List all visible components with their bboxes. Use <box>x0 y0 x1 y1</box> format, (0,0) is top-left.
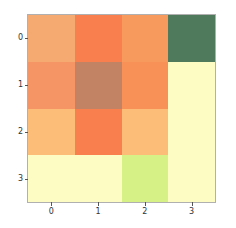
heatmap-cell <box>75 15 122 62</box>
y-tick-mark <box>25 132 29 133</box>
x-tick-label: 3 <box>189 208 194 216</box>
figure-canvas: 0123 0123 <box>0 0 236 228</box>
heatmap-cell <box>168 109 215 156</box>
y-tick-label: 1 <box>18 81 23 89</box>
x-tick-label: 1 <box>96 208 101 216</box>
heatmap-cell <box>122 109 169 156</box>
x-tick-label: 0 <box>49 208 54 216</box>
x-tick-mark <box>98 202 99 206</box>
heatmap-cell <box>75 109 122 156</box>
heatmap-cell <box>28 15 75 62</box>
x-tick-mark <box>192 202 193 206</box>
heatmap-cell <box>168 15 215 62</box>
heatmap-cell <box>168 155 215 202</box>
x-tick-label: 2 <box>142 208 147 216</box>
x-tick-mark <box>51 202 52 206</box>
x-tick-mark <box>145 202 146 206</box>
y-tick-mark <box>25 38 29 39</box>
y-tick-label: 0 <box>18 34 23 42</box>
heatmap-grid <box>28 15 215 202</box>
y-tick-label: 3 <box>18 175 23 183</box>
y-tick-label: 2 <box>18 128 23 136</box>
y-tick-mark <box>25 85 29 86</box>
heatmap-cell <box>28 155 75 202</box>
heatmap-cell <box>168 62 215 109</box>
heatmap-cell <box>75 155 122 202</box>
heatmap-cell <box>122 62 169 109</box>
heatmap-axes: 0123 0123 <box>27 14 216 203</box>
heatmap-cell <box>122 15 169 62</box>
heatmap-cell <box>28 62 75 109</box>
heatmap-cell <box>28 109 75 156</box>
heatmap-cell <box>75 62 122 109</box>
heatmap-cell <box>122 155 169 202</box>
y-tick-mark <box>25 179 29 180</box>
